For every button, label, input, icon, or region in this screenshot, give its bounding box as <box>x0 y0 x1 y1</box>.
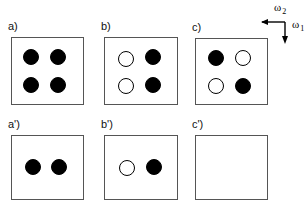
panel-box-b-prime <box>104 135 178 200</box>
panel-label-c-prime: c') <box>192 119 203 130</box>
panel-a-site-top-right-filled-circle <box>50 49 66 65</box>
panel-label-b: b) <box>101 21 111 32</box>
panel-a-site-top-left-filled-circle <box>23 49 39 65</box>
panel-b-prime-site-mid-right-filled-circle <box>146 159 162 175</box>
frequency-axes-indicator: ω2 ω1 <box>252 0 307 50</box>
omega2-arrowhead <box>261 19 268 25</box>
panel-label-c: c) <box>192 22 201 33</box>
panel-b-site-top-left-open-circle <box>118 51 134 67</box>
omega1-axis-label: ω1 <box>292 19 304 34</box>
panel-label-a-prime: a') <box>8 119 20 130</box>
panel-box-a <box>11 37 84 105</box>
panel-b-site-bottom-left-open-circle <box>118 78 134 94</box>
panel-c-site-bottom-right-filled-circle <box>235 78 251 94</box>
panel-a-prime-site-mid-left-filled-circle <box>25 159 41 175</box>
panel-c-site-bottom-left-open-circle <box>208 78 224 94</box>
omega2-axis-label: ω2 <box>274 2 286 17</box>
panel-b-site-top-right-filled-circle <box>145 49 161 65</box>
omega1-arrowhead <box>282 36 288 44</box>
panel-box-c-prime <box>195 135 268 200</box>
panel-a-prime-site-mid-right-filled-circle <box>51 159 67 175</box>
panel-b-site-bottom-right-filled-circle <box>145 77 161 93</box>
panel-box-b <box>104 37 178 105</box>
omega1-subscript: 1 <box>299 24 304 33</box>
panel-c-site-top-left-filled-circle <box>208 50 224 66</box>
omega2-subscript: 2 <box>281 7 286 16</box>
panel-label-b-prime: b') <box>101 119 113 130</box>
panel-a-site-bottom-right-filled-circle <box>50 77 66 93</box>
panel-label-a: a) <box>8 21 18 32</box>
panel-a-site-bottom-left-filled-circle <box>23 77 39 93</box>
panel-b-prime-site-mid-left-open-circle <box>119 160 135 176</box>
panel-box-a-prime <box>11 135 84 200</box>
panel-c-site-top-right-open-circle <box>235 50 251 66</box>
